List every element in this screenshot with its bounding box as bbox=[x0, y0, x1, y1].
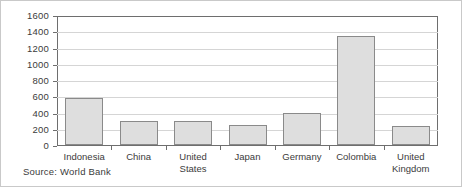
x-axis-tick-label: Indonesia bbox=[57, 151, 111, 163]
y-axis-tick-label: 800 bbox=[1, 75, 49, 86]
plot-frame-bottom bbox=[57, 145, 438, 146]
x-axis-tick-mark bbox=[220, 146, 221, 150]
x-axis-tick-mark bbox=[329, 146, 330, 150]
x-axis-tick-mark bbox=[166, 146, 167, 150]
x-axis-tick-mark bbox=[384, 146, 385, 150]
y-axis-tick-label: 0 bbox=[1, 140, 49, 151]
x-axis-tick-label: Germany bbox=[275, 151, 329, 163]
x-axis-tick-label-line1: United States bbox=[179, 151, 206, 174]
x-axis-tick-label: UnitedKingdom bbox=[384, 151, 438, 175]
bar bbox=[337, 36, 375, 145]
bar bbox=[120, 121, 158, 145]
y-axis-tick-label: 1400 bbox=[1, 26, 49, 37]
y-axis-tick-label: 600 bbox=[1, 91, 49, 102]
gridline bbox=[57, 114, 438, 115]
gridline bbox=[57, 32, 438, 33]
x-axis-tick-mark bbox=[111, 146, 112, 150]
x-axis-tick-label: China bbox=[111, 151, 165, 163]
y-axis-tick-mark bbox=[53, 146, 57, 147]
bar-chart-figure: 02004006008001000120014001600 IndonesiaC… bbox=[0, 0, 462, 187]
y-axis-tick-label: 1000 bbox=[1, 59, 49, 70]
gridline bbox=[57, 49, 438, 50]
x-axis-tick-mark bbox=[275, 146, 276, 150]
gridline bbox=[57, 97, 438, 98]
x-axis-tick-label-line1: Germany bbox=[282, 151, 321, 162]
x-axis-tick-label-line1: Indonesia bbox=[64, 151, 105, 162]
plot-area bbox=[57, 16, 438, 146]
source-note: Source: World Bank bbox=[23, 166, 111, 177]
y-axis-tick-label: 200 bbox=[1, 124, 49, 135]
y-axis-tick-label: 1600 bbox=[1, 10, 49, 21]
x-axis-tick-label-line1: Colombia bbox=[336, 151, 376, 162]
bar bbox=[229, 125, 267, 145]
plot-frame-top bbox=[57, 16, 438, 17]
bar bbox=[283, 113, 321, 145]
x-axis-tick-label: Colombia bbox=[329, 151, 383, 163]
x-axis-tick-label-line1: United bbox=[397, 151, 424, 162]
x-axis-tick-label-line1: Japan bbox=[235, 151, 261, 162]
y-axis-tick-label: 400 bbox=[1, 108, 49, 119]
x-axis-tick-label: United States bbox=[166, 151, 220, 175]
bar bbox=[174, 121, 212, 145]
x-axis-tick-label: Japan bbox=[220, 151, 274, 163]
gridline bbox=[57, 81, 438, 82]
gridline bbox=[57, 65, 438, 66]
x-axis-tick-label-line2: Kingdom bbox=[384, 163, 438, 175]
bar bbox=[392, 126, 430, 145]
y-axis-tick-label: 1200 bbox=[1, 43, 49, 54]
bar bbox=[65, 98, 103, 145]
x-axis-tick-label-line1: China bbox=[126, 151, 151, 162]
